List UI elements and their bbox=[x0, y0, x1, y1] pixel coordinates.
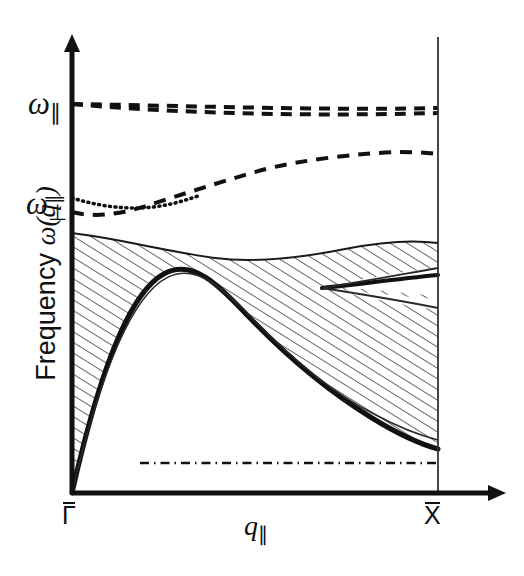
y-axis-arrowhead bbox=[64, 34, 80, 52]
x-axis-arrowhead bbox=[488, 485, 506, 501]
omega-perp-dashed-branch bbox=[72, 152, 438, 215]
gamma-overbar bbox=[63, 502, 75, 504]
omega-parallel-upper-dashed bbox=[72, 104, 438, 109]
x-tick-x-bar: X bbox=[424, 503, 441, 528]
omega-perp-tick-label: ω⊥ bbox=[26, 188, 67, 225]
phonon-dispersion-figure: Frequency ω(q∥) ω∥ ω⊥ Γ X q∥ bbox=[0, 0, 524, 576]
bulk-phonon-continuum-band bbox=[72, 233, 438, 493]
x-axis-label: q∥ bbox=[244, 512, 267, 544]
x-tick-gamma-bar: Γ bbox=[62, 503, 76, 528]
omega-parallel-tick-label: ω∥ bbox=[28, 88, 60, 125]
x-overbar bbox=[425, 502, 440, 504]
omega-perp-dotted-resonance bbox=[72, 196, 198, 208]
dispersion-plot-svg bbox=[0, 0, 524, 576]
y-axis-label-text: Frequency bbox=[31, 253, 61, 381]
